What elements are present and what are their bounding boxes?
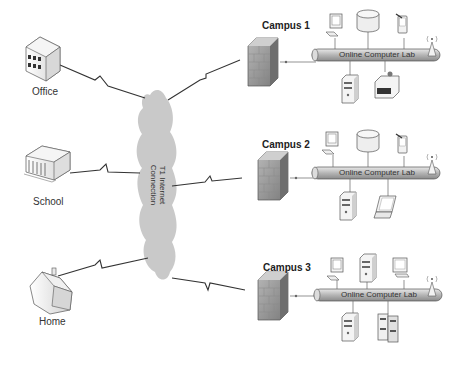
campus-2-label: Campus 2: [262, 139, 310, 150]
tower-server-icon: [342, 75, 358, 103]
tower-server-icon: [340, 192, 356, 220]
pda-icon: [396, 14, 407, 33]
office-building-icon: [26, 37, 60, 81]
campus-3-bus-label: Online Computer Lab: [320, 290, 438, 299]
office-label: Office: [32, 86, 58, 97]
cloud-label-line1: T1 Internet: [158, 157, 167, 213]
monitor-icon: [393, 258, 409, 277]
pda-icon: [396, 134, 407, 153]
tower-server-icon: [342, 313, 358, 341]
home-label: Home: [39, 316, 66, 327]
database-icon: [357, 130, 379, 152]
desktop-computer-icon: [322, 132, 338, 154]
desktop-computer-icon: [326, 14, 342, 36]
school-label: School: [33, 196, 64, 207]
tower-server-icon: [360, 254, 376, 282]
network-diagram: Office School Home T1 Internet Connectio…: [0, 0, 449, 366]
server-rack-icon: [378, 314, 398, 342]
school-building-icon: [24, 146, 70, 182]
desktop-computer-icon: [327, 258, 343, 280]
campus-1-bus-label: Online Computer Lab: [318, 50, 436, 59]
campus-1-label: Campus 1: [262, 20, 310, 31]
campus-3-label: Campus 3: [263, 262, 311, 273]
printer-icon: [375, 72, 399, 99]
firewall-icon: [258, 152, 288, 200]
laptop-icon: [374, 196, 396, 218]
database-icon: [357, 10, 379, 32]
cloud-label-line2: Connection: [149, 157, 158, 213]
home-house-icon: [30, 268, 72, 314]
firewall-icon: [248, 38, 278, 86]
firewall-icon: [258, 272, 288, 320]
campus-2-bus-label: Online Computer Lab: [318, 168, 436, 177]
cloud-label: T1 Internet Connection: [149, 157, 167, 213]
